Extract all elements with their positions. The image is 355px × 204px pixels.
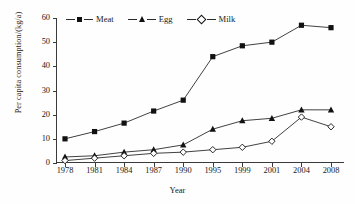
y-tick-label: 50: [20, 38, 50, 46]
data-point-milk: [210, 147, 216, 153]
y-axis-tick: [53, 163, 57, 164]
data-point-meat: [92, 129, 97, 134]
data-point-meat: [210, 54, 215, 59]
y-tick-label: 40: [20, 62, 50, 70]
data-point-meat: [122, 121, 127, 126]
data-point-meat: [62, 136, 67, 141]
data-point-meat: [328, 25, 333, 30]
y-tick-label: 20: [20, 111, 50, 119]
chart-figure: Per capita consumption/(kg/a) Meat Egg M…: [0, 0, 355, 204]
plot-area: [56, 18, 344, 163]
data-point-meat: [240, 43, 245, 48]
y-tick-label: 60: [20, 14, 50, 22]
data-point-milk: [239, 144, 245, 150]
x-axis-title: Year: [0, 185, 355, 195]
y-tick-label: 30: [20, 87, 50, 95]
series-line-meat: [65, 25, 331, 139]
data-point-milk: [328, 124, 334, 130]
data-point-egg: [180, 141, 186, 147]
y-tick-label: 10: [20, 135, 50, 143]
series-line-egg: [65, 110, 331, 157]
data-point-meat: [151, 108, 156, 113]
data-point-meat: [299, 23, 304, 28]
series-layer: [56, 18, 344, 163]
data-point-meat: [181, 98, 186, 103]
x-tick-label: 2008: [311, 166, 351, 175]
data-point-meat: [269, 40, 274, 45]
data-point-milk: [180, 149, 186, 155]
